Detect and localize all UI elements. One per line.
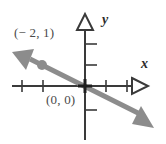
data-point-marker <box>37 60 47 70</box>
origin-coordinate-label: (0, 0) <box>46 92 75 108</box>
y-axis-label: y <box>102 12 108 28</box>
x-axis-label: x <box>141 56 148 72</box>
point-coordinate-label: (− 2, 1) <box>14 25 54 41</box>
coordinate-plane-graphic <box>0 0 166 144</box>
x-axis-arrow-icon <box>132 78 148 94</box>
graph-figure: (− 2, 1) (0, 0) y x <box>0 0 166 144</box>
y-axis-arrow-icon <box>77 14 93 30</box>
